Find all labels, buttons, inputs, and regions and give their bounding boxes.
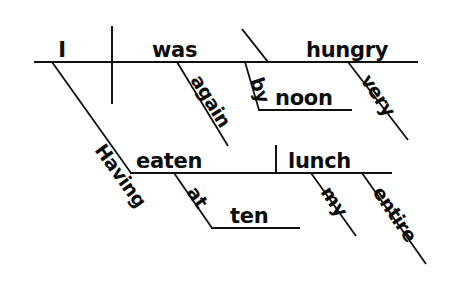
word-very: very — [357, 70, 401, 121]
word-at: at — [183, 182, 213, 212]
word-noon: noon — [275, 86, 333, 110]
word-lunch: lunch — [288, 149, 351, 173]
sentence-diagram: I was hungry again by noon very Having e… — [0, 0, 450, 292]
word-predicate-adjective: hungry — [306, 38, 389, 62]
word-by: by — [246, 74, 275, 106]
word-eaten: eaten — [136, 149, 202, 173]
word-verb: was — [152, 38, 197, 62]
sentence-diagram-canvas: I was hungry again by noon very Having e… — [0, 0, 450, 292]
word-subject: I — [58, 38, 66, 62]
word-ten: ten — [230, 204, 268, 228]
word-again: again — [187, 70, 236, 131]
predicate-adjective-slant — [242, 29, 268, 62]
word-entire: entire — [369, 182, 422, 246]
